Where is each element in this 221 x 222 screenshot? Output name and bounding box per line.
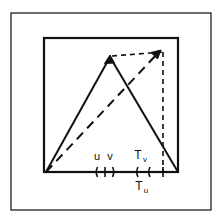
label-v: v [107, 150, 113, 162]
label-T-v-base: T [134, 148, 142, 162]
label-u: u [94, 150, 100, 162]
canvas-background [0, 0, 221, 222]
label-T-u-base: T [135, 179, 143, 193]
label-T-u-subscript: u [144, 186, 148, 195]
diagram-canvas: u v T v T u [0, 0, 221, 222]
figure-container: u v T v T u [0, 0, 221, 222]
label-T-v-subscript: v [143, 155, 147, 164]
